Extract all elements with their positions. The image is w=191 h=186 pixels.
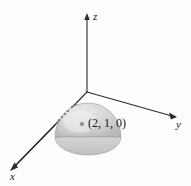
y-axis-label: y [176,119,181,130]
hemisphere-base-front [55,137,121,155]
point-marker [80,122,84,126]
figure-canvas [0,0,191,186]
three-d-coordinate-figure: z y x (2, 1, 0) [0,0,191,186]
point-label: (2, 1, 0) [88,117,126,129]
x-axis-front-segment [14,125,55,167]
z-axis-label: z [93,11,97,22]
z-axis-arrowhead [84,13,89,20]
x-axis-label: x [10,171,15,182]
